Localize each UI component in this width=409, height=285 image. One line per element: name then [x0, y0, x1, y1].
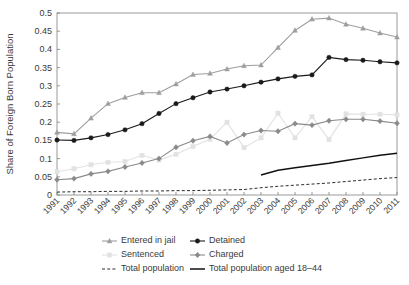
x-tick-label: 2011 [381, 195, 401, 215]
y-tick-label: 0.3 [39, 81, 52, 91]
data-point [395, 61, 399, 65]
data-point [106, 132, 110, 136]
x-tick-label: 1998 [160, 195, 181, 216]
data-point [327, 55, 331, 59]
data-point [242, 132, 247, 137]
data-point [72, 176, 77, 181]
data-point [157, 111, 161, 115]
x-tick-label: 1997 [143, 195, 164, 216]
data-point [276, 77, 280, 81]
data-point [310, 73, 314, 77]
data-point [174, 152, 178, 156]
series-total-population [57, 178, 397, 193]
data-point [361, 117, 366, 122]
y-tick-label: 0.1 [39, 154, 52, 164]
data-point [106, 169, 111, 174]
data-point [259, 80, 263, 84]
data-point [310, 115, 314, 119]
legend-item: Total population [102, 263, 184, 273]
legend-item: Total population aged 18–44 [190, 263, 322, 273]
series-charged [55, 117, 400, 183]
y-tick-label: 0.5 [39, 8, 52, 18]
line-chart: 00.050.10.150.20.250.30.350.40.450.51991… [0, 0, 409, 285]
x-tick-label: 2008 [330, 195, 351, 216]
data-point [310, 122, 315, 127]
legend-item: Charged [190, 249, 244, 259]
x-tick-label: 1996 [126, 195, 147, 216]
data-point [106, 160, 110, 164]
data-point [293, 28, 298, 33]
data-point [225, 87, 229, 91]
data-point [361, 112, 365, 116]
legend-label: Detained [209, 235, 245, 245]
legend-item: Sentenced [102, 249, 164, 259]
x-tick-label: 1991 [41, 195, 62, 216]
x-tick-label: 1992 [58, 195, 79, 216]
data-point [123, 164, 128, 169]
legend-label: Entered in jail [121, 235, 176, 245]
y-tick-label: 0.15 [34, 135, 52, 145]
data-point [344, 112, 348, 116]
legend-swatch-marker [195, 252, 200, 257]
data-point [293, 74, 297, 78]
x-tick-label: 2000 [194, 195, 215, 216]
data-point [72, 138, 76, 142]
data-point [242, 84, 246, 88]
legend-label: Sentenced [121, 249, 164, 259]
data-point [293, 136, 297, 140]
data-point [89, 136, 93, 140]
legend-swatch-marker [195, 239, 199, 243]
data-point [140, 121, 144, 125]
data-point [89, 163, 93, 167]
x-tick-label: 1995 [109, 195, 130, 216]
data-point [191, 138, 196, 143]
data-point [123, 128, 127, 132]
y-tick-label: 0.45 [34, 26, 52, 36]
data-point [361, 58, 365, 62]
x-tick-label: 2005 [279, 195, 300, 216]
data-point [55, 177, 60, 182]
data-point [123, 159, 127, 163]
data-point [225, 120, 229, 124]
data-point [225, 140, 230, 145]
legend-item: Detained [190, 235, 245, 245]
data-point [395, 113, 399, 117]
data-point [72, 167, 76, 171]
data-point [293, 121, 298, 126]
legend-label: Total population [121, 263, 184, 273]
y-tick-label: 0.25 [34, 99, 52, 109]
x-tick-label: 2003 [245, 195, 266, 216]
data-point [191, 144, 195, 148]
y-tick-label: 0.35 [34, 63, 52, 73]
data-point [395, 121, 400, 126]
x-tick-label: 2004 [262, 195, 283, 216]
y-tick-label: 0.2 [39, 117, 52, 127]
series-total-population-aged-18-44 [261, 153, 397, 175]
series-entered-in-jail [55, 15, 400, 135]
series-line [57, 178, 397, 193]
data-point [55, 138, 59, 142]
data-point [378, 118, 383, 123]
data-point [89, 171, 94, 176]
x-tick-label: 2007 [313, 195, 334, 216]
data-point [208, 90, 212, 94]
data-point [344, 57, 348, 61]
data-point [140, 153, 144, 157]
data-point [327, 118, 332, 123]
data-point [276, 111, 280, 115]
data-point [378, 112, 382, 116]
x-tick-label: 1999 [177, 195, 198, 216]
data-point [174, 101, 178, 105]
x-tick-label: 1993 [75, 195, 96, 216]
x-tick-label: 2006 [296, 195, 317, 216]
x-tick-label: 2009 [347, 195, 368, 216]
x-tick-label: 2010 [364, 195, 385, 216]
data-point [174, 145, 179, 150]
legend-item: Entered in jail [102, 235, 176, 245]
series-line [261, 153, 397, 175]
data-point [327, 138, 331, 142]
legend-swatch-marker [107, 253, 111, 257]
x-tick-label: 1994 [92, 195, 113, 216]
data-point [242, 146, 246, 150]
data-point [55, 170, 59, 174]
